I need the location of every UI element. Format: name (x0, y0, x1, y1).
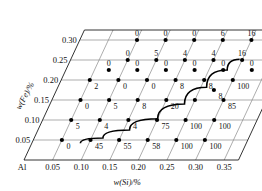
data-point (60, 138, 64, 142)
data-label: 8 (209, 82, 213, 91)
x-tick-label: 0.25 (160, 162, 175, 172)
y-tick-label: 0.30 (62, 35, 77, 45)
data-point (117, 138, 121, 142)
data-label: 2 (94, 82, 98, 91)
data-label: 58 (152, 142, 160, 151)
data-point (88, 78, 92, 82)
data-point (231, 78, 235, 82)
data-label: 5 (154, 49, 158, 58)
data-point (98, 118, 102, 122)
data-point (211, 58, 215, 62)
data-point (212, 118, 216, 122)
data-point (193, 68, 197, 72)
data-point (203, 138, 207, 142)
data-label: 6 (221, 29, 225, 38)
data-point (146, 138, 150, 142)
y-tick-label: 0.15 (34, 95, 49, 105)
data-label: 100 (209, 142, 221, 151)
data-point (88, 138, 92, 142)
data-label: 0 (135, 29, 139, 38)
data-point (221, 68, 225, 72)
x-tick-label: 0.05 (45, 162, 60, 172)
data-point (155, 118, 159, 122)
data-point (249, 38, 253, 42)
data-label: 75 (162, 122, 170, 131)
phase-boundary-curve (80, 59, 239, 143)
data-label: 0 (250, 59, 254, 68)
x-tick-label: 0.20 (131, 162, 146, 172)
data-label: 0 (66, 142, 70, 151)
data-label: 0 (164, 29, 168, 38)
x-tick-label: 0.15 (102, 162, 117, 172)
boundary-curve (80, 59, 239, 143)
data-label: 4 (133, 122, 137, 131)
data-point (174, 138, 178, 142)
data-label: 55 (124, 142, 132, 151)
y-tick-label: 0.05 (15, 135, 30, 145)
data-label: 100 (181, 142, 193, 151)
data-point (240, 58, 244, 62)
data-point (126, 58, 130, 62)
origin-label-al: Al (18, 162, 27, 172)
data-label: 20 (171, 102, 179, 111)
data-label: 8 (142, 102, 146, 111)
data-point (69, 118, 73, 122)
data-label: 0 (192, 29, 196, 38)
y-axis-title: w(Fe)/% (13, 80, 36, 111)
x-tick-label: 0.10 (74, 162, 89, 172)
data-label: 0 (164, 59, 168, 68)
data-labels: 0006160544161200000020088100805820855447… (66, 29, 262, 151)
x-axis-title: w(Si)/% (114, 177, 141, 187)
data-label: 5 (114, 102, 118, 111)
data-point (135, 68, 139, 72)
data-label: 16 (238, 49, 246, 58)
data-label: 100 (219, 122, 231, 131)
data-label: 45 (95, 142, 103, 151)
data-point (136, 98, 140, 102)
data-point (202, 78, 206, 82)
x-tick-label: 0.30 (188, 162, 203, 172)
data-label: 8 (180, 82, 184, 91)
data-label: 0 (135, 59, 139, 68)
data-point (107, 68, 111, 72)
data-point (250, 68, 254, 72)
x-tick-label: 0.35 (217, 162, 232, 172)
data-point (145, 78, 149, 82)
data-label: 4 (183, 49, 187, 58)
y-tick-label: 0.25 (53, 55, 68, 65)
y-tick-label: 0.10 (25, 115, 40, 125)
axes (24, 30, 262, 160)
data-point (193, 98, 197, 102)
data-point (107, 98, 111, 102)
data-point (164, 38, 168, 42)
data-label: 0 (85, 102, 89, 111)
data-label: 0 (152, 82, 156, 91)
data-label: 100 (190, 122, 202, 131)
data-point (126, 118, 130, 122)
data-point (135, 38, 139, 42)
data-label: 0 (221, 59, 225, 68)
data-label: 0 (123, 82, 127, 91)
data-point (78, 98, 82, 102)
data-label: 5 (76, 122, 80, 131)
data-point (174, 78, 178, 82)
data-label: 16 (247, 29, 255, 38)
data-point (183, 58, 187, 62)
scatter-chart: 0006160544161200000020088100805820855447… (0, 0, 262, 191)
data-label: 4 (104, 122, 108, 131)
data-label: 4 (212, 49, 216, 58)
plot-frame (24, 30, 262, 160)
data-label: 0 (107, 59, 111, 68)
y-tick-label: 0.20 (43, 75, 58, 85)
data-label: 8 (218, 92, 222, 101)
data-label: 100 (237, 82, 249, 91)
chart-container: 0006160544161200000020088100805820855447… (0, 0, 262, 191)
data-point (221, 38, 225, 42)
data-point (184, 118, 188, 122)
data-label: 85 (228, 102, 236, 111)
data-point (192, 38, 196, 42)
data-label: 0 (126, 49, 130, 58)
data-point (116, 78, 120, 82)
tick-labels: 0.050.100.150.200.250.300.35Al0.050.100.… (13, 35, 231, 187)
data-label: 0 (193, 59, 197, 68)
